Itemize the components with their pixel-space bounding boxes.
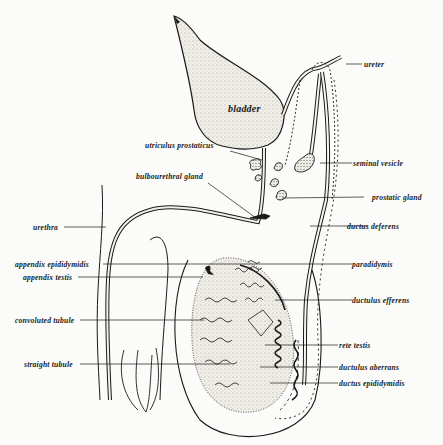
- label-seminal-vesicle: seminal vesicle: [353, 159, 403, 168]
- label-urethra: urethra: [33, 223, 58, 232]
- label-appendix-testis: appendix testis: [23, 273, 72, 282]
- label-ductulus-efferens: ductulus efferens: [352, 296, 409, 305]
- label-ductulus-aberrans: ductulus aberrans: [339, 363, 399, 372]
- bladder: [174, 16, 284, 149]
- testis: [175, 258, 321, 437]
- label-convoluted-tubule: convoluted tubule: [15, 316, 74, 325]
- label-utriculus-prostaticus: utriculus prostaticus: [145, 141, 214, 150]
- label-ductus-deferens: ductus deferens: [347, 222, 399, 231]
- label-prostatic-gland: prostatic gland: [372, 193, 422, 202]
- label-bulbourethral-gland: bulbourethral gland: [136, 172, 203, 181]
- prostate-glands: [250, 154, 315, 200]
- label-rete-testis: rete testis: [339, 341, 371, 350]
- label-appendix-epididymidis: appendix epididymidis: [15, 260, 89, 269]
- label-paradidymis: paradidymis: [352, 260, 393, 269]
- label-ureter: ureter: [364, 60, 384, 69]
- label-ductus-epididymidis: ductus epididymidis: [339, 379, 405, 388]
- label-bladder: bladder: [228, 104, 261, 113]
- label-straight-tubule: straight tubule: [24, 360, 73, 369]
